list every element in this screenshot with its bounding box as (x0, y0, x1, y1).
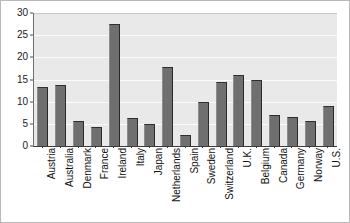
bar-switzerland[interactable] (216, 82, 227, 146)
x-tick-label-france: France (99, 148, 110, 179)
x-tick-label-denmark: Denmark (82, 148, 93, 189)
x-tick-label-ireland: Ireland (117, 148, 128, 179)
bar-chart-figure: 051015202530 AustriaAustraliaDenmarkFran… (0, 0, 350, 223)
bar-sweden[interactable] (198, 102, 209, 146)
plot-area (33, 13, 337, 147)
x-tick-mark-2 (78, 146, 79, 148)
x-tick-label-u-s: U.S. (331, 148, 342, 167)
x-tick-mark-8 (185, 146, 186, 148)
bar-u-k[interactable] (233, 75, 244, 146)
x-tick-mark-10 (220, 146, 221, 148)
x-tick-label-belgium: Belgium (260, 148, 271, 184)
x-tick-mark-9 (202, 146, 203, 148)
bar-germany[interactable] (287, 117, 298, 146)
x-tick-label-u-k: U.K. (242, 148, 253, 167)
x-tick-label-australia: Australia (64, 148, 75, 187)
y-tick-label-10: 10 (17, 97, 28, 107)
y-tick-label-20: 20 (17, 52, 28, 62)
x-tick-mark-12 (256, 146, 257, 148)
x-tick-label-switzerland: Switzerland (224, 148, 235, 200)
x-tick-mark-15 (309, 146, 310, 148)
bar-belgium[interactable] (251, 80, 262, 147)
x-tick-mark-7 (167, 146, 168, 148)
x-tick-label-netherlands: Netherlands (171, 148, 182, 202)
x-tick-mark-0 (42, 146, 43, 148)
bars-group (34, 13, 337, 146)
bar-spain[interactable] (180, 135, 191, 146)
x-tick-mark-16 (327, 146, 328, 148)
y-tick-label-25: 25 (17, 30, 28, 40)
x-tick-label-sweden: Sweden (206, 148, 217, 184)
y-tick-label-30: 30 (17, 8, 28, 18)
y-axis: 051015202530 (1, 1, 33, 223)
x-tick-mark-14 (291, 146, 292, 148)
bar-france[interactable] (91, 127, 102, 146)
bar-italy[interactable] (127, 118, 138, 146)
x-tick-mark-1 (60, 146, 61, 148)
x-tick-mark-11 (238, 146, 239, 148)
y-tick-label-0: 0 (22, 141, 28, 151)
x-tick-mark-3 (95, 146, 96, 148)
x-tick-mark-5 (131, 146, 132, 148)
bar-canada[interactable] (269, 115, 280, 146)
x-tick-label-germany: Germany (295, 148, 306, 189)
x-tick-mark-13 (274, 146, 275, 148)
bar-denmark[interactable] (73, 121, 84, 146)
x-tick-mark-6 (149, 146, 150, 148)
x-tick-mark-4 (113, 146, 114, 148)
x-tick-label-norway: Norway (313, 148, 324, 182)
bar-australia[interactable] (55, 85, 66, 146)
x-axis: AustriaAustraliaDenmarkFranceIrelandItal… (33, 148, 336, 223)
x-tick-label-austria: Austria (46, 148, 57, 179)
bar-netherlands[interactable] (162, 67, 173, 146)
x-tick-label-canada: Canada (278, 148, 289, 183)
bar-austria[interactable] (37, 87, 48, 146)
y-tick-label-5: 5 (22, 119, 28, 129)
y-tick-label-15: 15 (17, 75, 28, 85)
bar-japan[interactable] (144, 124, 155, 146)
bar-norway[interactable] (305, 121, 316, 146)
bar-ireland[interactable] (109, 24, 120, 146)
x-tick-label-spain: Spain (189, 148, 200, 174)
bar-u-s[interactable] (323, 106, 334, 146)
x-tick-label-japan: Japan (153, 148, 164, 175)
x-tick-label-italy: Italy (135, 148, 146, 166)
